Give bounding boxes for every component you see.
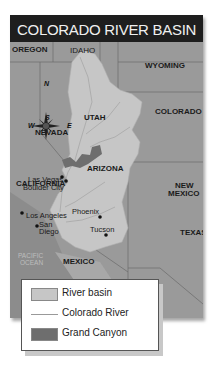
- city-label-phoenix: Phoenix: [72, 208, 99, 216]
- city-label-diego: Diego: [39, 228, 59, 236]
- ocean-label-line1: PACIFIC: [18, 252, 43, 259]
- country-label-mexico: MEXICO: [63, 258, 95, 266]
- grand-canyon-swatch: [31, 328, 58, 341]
- state-label-idaho: IDAHO: [70, 47, 95, 55]
- colorado-river-line-swatch: [31, 314, 58, 315]
- legend-label-river-basin: River basin: [62, 287, 112, 298]
- legend-item-grand-canyon: [31, 327, 58, 341]
- state-label-utah: UTAH: [84, 114, 106, 122]
- ocean-label-line2: OCEAN: [20, 259, 43, 266]
- state-label-wyoming: WYOMING: [145, 62, 185, 70]
- state-label-arizona: ARIZONA: [87, 165, 123, 173]
- state-label-new-mexico-2: MEXICO: [168, 190, 200, 198]
- state-label-colorado: COLORADO: [155, 108, 202, 116]
- legend-label-grand-canyon: Grand Canyon: [62, 327, 127, 338]
- compass-north: N: [44, 80, 49, 87]
- city-label-los-angeles: Los Angeles: [26, 212, 67, 220]
- river-basin-swatch: [31, 288, 58, 301]
- legend-item-colorado-river: [31, 307, 58, 321]
- state-label-nevada: NEVADA: [35, 129, 68, 137]
- state-label-texas: TEXAS: [180, 229, 203, 237]
- map-legend: River basin Colorado River Grand Canyon: [21, 279, 159, 351]
- city-label-boulder-city: Boulder City: [23, 184, 64, 192]
- map-title: COLORADO RIVER BASIN: [17, 21, 196, 38]
- compass-south: S: [45, 114, 50, 121]
- compass-west: W: [28, 122, 35, 129]
- compass-east: E: [67, 122, 72, 129]
- legend-label-colorado-river: Colorado River: [62, 307, 129, 318]
- title-bar: COLORADO RIVER BASIN: [10, 15, 203, 42]
- city-label-tucson: Tucson: [90, 226, 114, 234]
- legend-item-river-basin: [31, 287, 58, 301]
- map-frame: COLORADO RIVER BASIN: [10, 15, 203, 318]
- state-label-oregon: OREGON: [12, 46, 48, 54]
